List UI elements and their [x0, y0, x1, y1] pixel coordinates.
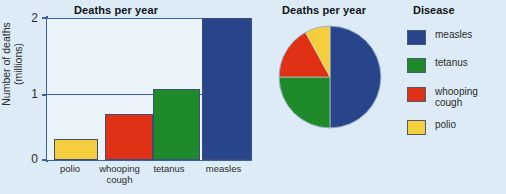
bar-polio[interactable] [54, 139, 98, 160]
y-tick-label-2: 2 [18, 11, 38, 25]
pie-chart-title: Deaths per year [282, 4, 366, 16]
x-axis-label-tetanus: tetanus [144, 164, 194, 175]
legend-swatch-polio [407, 120, 426, 135]
x-axis-label-polio: polio [46, 164, 94, 175]
bar-chart-title: Deaths per year [74, 4, 158, 16]
legend-label-whooping-cough: whooping cough [435, 86, 478, 108]
legend-item-whooping-cough[interactable]: whooping cough [407, 86, 503, 108]
bar-tetanus[interactable] [153, 89, 200, 160]
legend-label-measles: measles [435, 29, 472, 40]
legend-swatch-whooping-cough [407, 87, 426, 102]
legend-swatch-measles [407, 30, 426, 45]
legend-title: Disease [413, 4, 455, 16]
pie-slice-measles[interactable] [330, 26, 381, 128]
legend-item-measles[interactable]: measles [407, 29, 503, 45]
x-axis-label-measles: measles [195, 164, 252, 175]
bar-measles[interactable] [202, 18, 252, 160]
pie-slices [279, 26, 381, 128]
bar-whooping-cough[interactable] [105, 114, 153, 160]
figure-container: Deaths per year Number of deaths (millio… [0, 0, 506, 194]
y-tick-label-1: 1 [18, 87, 38, 101]
pie-chart [278, 25, 382, 129]
legend-item-tetanus[interactable]: tetanus [407, 57, 503, 73]
legend-label-tetanus: tetanus [435, 57, 468, 68]
pie-slice-tetanus[interactable] [279, 77, 330, 128]
y-axis-title-line1: Number of deaths [0, 8, 12, 120]
pie-chart-panel: Deaths per year [256, 0, 392, 194]
legend-label-polio: polio [435, 119, 456, 130]
y-tick-label-0: 0 [18, 152, 38, 166]
bar-plot-area [47, 18, 252, 160]
legend-swatch-tetanus [407, 58, 426, 73]
x-axis-label-whooping-cough: whooping cough [93, 164, 146, 185]
legend-item-polio[interactable]: polio [407, 119, 503, 135]
bar-chart-panel: Deaths per year Number of deaths (millio… [0, 0, 256, 194]
legend: Disease measles tetanus whooping cough p… [392, 0, 506, 194]
